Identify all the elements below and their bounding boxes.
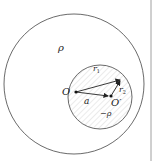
point-o xyxy=(74,90,77,93)
center-o-label: O xyxy=(62,86,70,97)
center-o-prime-label: O′ xyxy=(111,97,122,108)
inner-density-label: −ρ xyxy=(100,109,112,118)
outer-density-label: ρ xyxy=(57,42,64,53)
inner-cavity xyxy=(68,65,132,129)
cavity-diagram: ρ O O′ a −ρ r1 r2 xyxy=(0,0,156,161)
offset-label: a xyxy=(84,96,89,106)
